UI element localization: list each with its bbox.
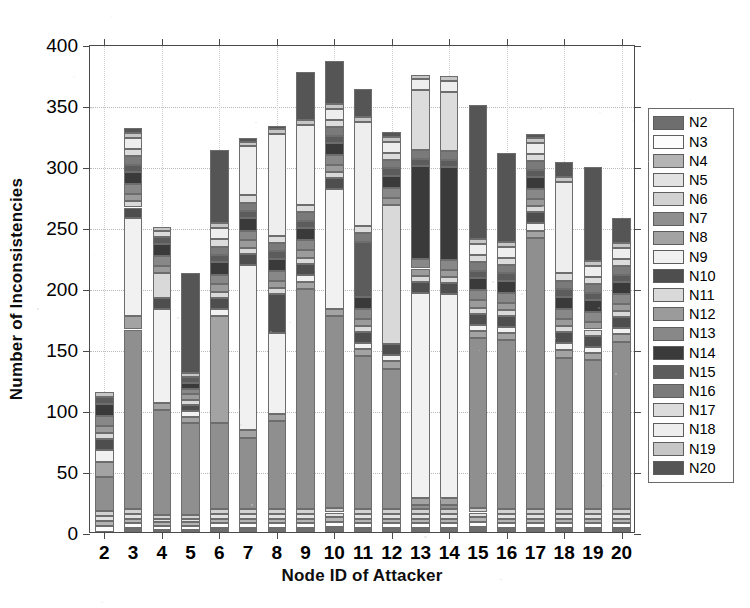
bar-segment[interactable] <box>555 162 574 177</box>
bar-segment[interactable] <box>526 138 545 143</box>
bar-segment[interactable] <box>153 256 172 266</box>
bar-segment[interactable] <box>555 332 574 343</box>
bar-segment[interactable] <box>325 508 344 513</box>
bar-segment[interactable] <box>526 154 545 161</box>
bar-segment[interactable] <box>440 519 459 524</box>
stacked-bar[interactable] <box>124 128 143 532</box>
bar-segment[interactable] <box>210 239 229 246</box>
bar-segment[interactable] <box>440 81 459 92</box>
bar-segment[interactable] <box>469 508 488 513</box>
bar-segment[interactable] <box>584 312 603 322</box>
bar-segment[interactable] <box>296 250 315 257</box>
bar-segment[interactable] <box>584 347 603 353</box>
bar-segment[interactable] <box>555 319 574 326</box>
bar-segment[interactable] <box>411 282 430 293</box>
bar-segment[interactable] <box>181 405 200 411</box>
legend-item-n10[interactable]: N10 <box>653 267 730 286</box>
bar-segment[interactable] <box>382 509 401 514</box>
bar-segment[interactable] <box>555 509 574 514</box>
bar-segment[interactable] <box>526 170 545 177</box>
bar-segment[interactable] <box>153 526 172 530</box>
bar-segment[interactable] <box>153 410 172 515</box>
legend-item-n9[interactable]: N9 <box>653 247 730 266</box>
bar-segment[interactable] <box>526 223 545 230</box>
bar-segment[interactable] <box>239 519 258 524</box>
bar-segment[interactable] <box>354 242 373 297</box>
legend-item-n19[interactable]: N19 <box>653 439 730 458</box>
bar-segment[interactable] <box>440 294 459 498</box>
bar-segment[interactable] <box>153 522 172 526</box>
bar-segment[interactable] <box>239 195 258 202</box>
bar-segment[interactable] <box>584 266 603 277</box>
bar-segment[interactable] <box>497 519 516 524</box>
bar-segment[interactable] <box>497 153 516 242</box>
bar-segment[interactable] <box>268 528 287 532</box>
bar-segment[interactable] <box>555 273 574 280</box>
bar-segment[interactable] <box>268 509 287 514</box>
bar-segment[interactable] <box>440 277 459 283</box>
bar-segment[interactable] <box>469 300 488 307</box>
legend-item-n6[interactable]: N6 <box>653 190 730 209</box>
bar-segment[interactable] <box>555 343 574 350</box>
bar-segment[interactable] <box>296 125 315 206</box>
bar-segment[interactable] <box>411 259 430 269</box>
bar-segment[interactable] <box>469 517 488 522</box>
bar-segment[interactable] <box>210 247 229 256</box>
stacked-bar[interactable] <box>584 167 603 532</box>
stacked-bar[interactable] <box>411 75 430 533</box>
bar-segment[interactable] <box>526 134 545 138</box>
bar-segment[interactable] <box>181 526 200 530</box>
bar-segment[interactable] <box>411 519 430 524</box>
bar-segment[interactable] <box>497 327 516 333</box>
bar-segment[interactable] <box>181 273 200 373</box>
bar-segment[interactable] <box>153 273 172 297</box>
bar-segment[interactable] <box>354 356 373 509</box>
bar-segment[interactable] <box>584 514 603 519</box>
stacked-bar[interactable] <box>95 392 114 532</box>
bar-segment[interactable] <box>296 514 315 519</box>
bar-segment[interactable] <box>440 523 459 528</box>
bar-segment[interactable] <box>612 317 631 328</box>
bar-segment[interactable] <box>210 298 229 309</box>
bar-segment[interactable] <box>497 242 516 247</box>
bar-segment[interactable] <box>95 511 114 516</box>
bar-segment[interactable] <box>411 509 430 514</box>
bar-segment[interactable] <box>95 526 114 532</box>
bar-segment[interactable] <box>584 336 603 347</box>
bar-segment[interactable] <box>555 326 574 332</box>
bar-segment[interactable] <box>612 304 631 311</box>
bar-segment[interactable] <box>124 330 143 509</box>
bar-segment[interactable] <box>181 411 200 417</box>
bar-segment[interactable] <box>411 269 430 276</box>
bar-segment[interactable] <box>584 293 603 300</box>
bar-segment[interactable] <box>440 509 459 514</box>
stacked-bar[interactable] <box>354 89 373 532</box>
bar-segment[interactable] <box>411 276 430 282</box>
bar-segment[interactable] <box>268 281 287 288</box>
bar-segment[interactable] <box>497 340 516 508</box>
bar-segment[interactable] <box>296 221 315 228</box>
bar-segment[interactable] <box>181 423 200 515</box>
bar-segment[interactable] <box>440 160 459 167</box>
bar-segment[interactable] <box>124 156 143 165</box>
bar-segment[interactable] <box>325 155 344 165</box>
bar-segment[interactable] <box>268 243 287 252</box>
bar-segment[interactable] <box>469 314 488 325</box>
bar-segment[interactable] <box>382 137 401 142</box>
bar-segment[interactable] <box>239 528 258 532</box>
bar-segment[interactable] <box>210 519 229 524</box>
bar-segment[interactable] <box>181 530 200 532</box>
stacked-bar[interactable] <box>469 105 488 532</box>
bar-segment[interactable] <box>584 284 603 293</box>
bar-segment[interactable] <box>612 523 631 528</box>
bar-segment[interactable] <box>124 509 143 514</box>
legend-item-n11[interactable]: N11 <box>653 286 730 305</box>
legend-item-n4[interactable]: N4 <box>653 151 730 170</box>
bar-segment[interactable] <box>268 421 287 509</box>
bar-segment[interactable] <box>440 167 459 260</box>
bar-segment[interactable] <box>239 438 258 509</box>
bar-segment[interactable] <box>584 277 603 284</box>
bar-segment[interactable] <box>181 515 200 519</box>
bar-segment[interactable] <box>124 514 143 519</box>
bar-segment[interactable] <box>124 208 143 219</box>
